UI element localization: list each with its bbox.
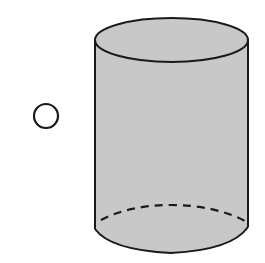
answer-choice-radio[interactable] bbox=[34, 104, 58, 128]
diagram-canvas bbox=[0, 0, 265, 263]
cylinder-body bbox=[95, 40, 248, 253]
cylinder-figure bbox=[0, 0, 265, 263]
cylinder-top-face bbox=[95, 18, 248, 62]
